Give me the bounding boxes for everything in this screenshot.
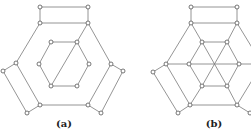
graph-edge [237, 23, 251, 64]
graph-edge [16, 63, 40, 105]
graph-edge [77, 42, 89, 64]
graph-node [109, 62, 113, 66]
graph-node [38, 5, 42, 9]
graph-node [187, 62, 191, 66]
graph-node [235, 21, 239, 25]
graph-edge [39, 42, 51, 64]
graph-node [164, 62, 168, 66]
graph-node [189, 5, 193, 9]
graph-node [200, 40, 204, 44]
graph-edge [166, 23, 191, 64]
graph-figure: (a) (b) [0, 0, 251, 132]
graph-node [86, 103, 90, 107]
graph-edge [227, 23, 237, 42]
graph-edge [227, 42, 239, 64]
graph-node [25, 111, 29, 115]
graph-node [121, 69, 125, 73]
graph-node [75, 40, 79, 44]
graph-node [176, 111, 180, 115]
graph-edge [191, 23, 202, 42]
graph-edge [77, 64, 89, 86]
graph-node [38, 21, 42, 25]
figure-a-label: (a) [56, 118, 72, 129]
graph-node [188, 103, 192, 107]
graph-node [235, 5, 239, 9]
graph-node [99, 111, 103, 115]
graph-edge [16, 23, 40, 63]
graph-node [86, 21, 90, 25]
graph-node [38, 103, 42, 107]
graph-node [49, 84, 53, 88]
figure-b: (b) [151, 5, 251, 129]
graph-node [237, 62, 241, 66]
figure-a-edges [3, 7, 123, 113]
graph-edge [237, 64, 251, 105]
graph-node [235, 103, 239, 107]
graph-edge [101, 71, 123, 113]
graph-edge [189, 64, 202, 86]
graph-edge [189, 42, 202, 64]
graph-node [225, 40, 229, 44]
graph-node [200, 84, 204, 88]
graph-edge [227, 86, 237, 105]
graph-node [49, 40, 53, 44]
graph-node [14, 61, 18, 65]
graph-edge [227, 64, 239, 86]
graph-edge [3, 71, 27, 113]
graph-node [225, 84, 229, 88]
graph-edge [39, 64, 51, 86]
figure-b-nodes [151, 5, 251, 115]
graph-node [189, 21, 193, 25]
graph-node [86, 5, 90, 9]
graph-edge [190, 86, 202, 105]
graph-node [248, 111, 251, 115]
graph-edge [88, 23, 111, 64]
figure-a-nodes [1, 5, 125, 115]
graph-node [37, 62, 41, 66]
graph-node [151, 70, 155, 74]
graph-node [1, 69, 5, 73]
graph-node [87, 62, 91, 66]
figure-b-label: (b) [206, 118, 222, 129]
graph-node [75, 84, 79, 88]
graph-edge [88, 64, 111, 105]
figure-a: (a) [1, 5, 125, 129]
